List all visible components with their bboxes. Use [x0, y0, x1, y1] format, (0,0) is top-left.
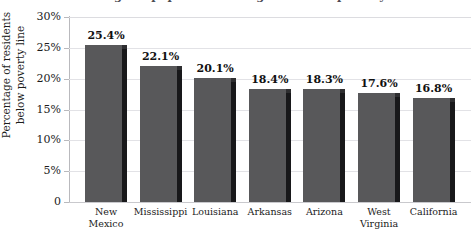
- bar: [358, 93, 395, 202]
- bar-front-face: [303, 89, 340, 202]
- bar-chart: Percentage of population living below th…: [0, 0, 471, 231]
- bar-side-face: [286, 93, 291, 202]
- bar-front-face: [358, 93, 395, 202]
- bar: [413, 98, 450, 202]
- bar-top-face: [122, 45, 127, 49]
- x-axis-category-label: Arkansas: [240, 206, 300, 218]
- bar-top-face: [177, 66, 182, 70]
- bar-top-face: [286, 89, 291, 93]
- x-axis-category-label: West Virginia: [349, 206, 409, 229]
- bar-top-face: [231, 78, 236, 82]
- bar-front-face: [413, 98, 450, 202]
- bar-value-label: 20.1%: [186, 62, 244, 75]
- bar-value-label: 25.4%: [77, 29, 135, 42]
- bar-value-label: 17.6%: [350, 77, 408, 90]
- bar-side-face: [177, 70, 182, 202]
- bar: [249, 89, 286, 202]
- y-axis-tick-label: 10%: [19, 133, 61, 146]
- y-axis-tick-label: 30%: [19, 10, 61, 23]
- y-axis-tick-label: 15%: [19, 103, 61, 116]
- bar-front-face: [85, 45, 122, 202]
- x-axis-category-label: New Mexico: [76, 206, 136, 229]
- x-axis-category-label: Mississippi: [131, 206, 191, 218]
- bar-side-face: [122, 49, 127, 202]
- bar-value-label: 22.1%: [132, 50, 190, 63]
- gridline: [69, 17, 471, 18]
- bar-value-label: 18.3%: [295, 73, 353, 86]
- bar-value-label: 18.4%: [241, 73, 299, 86]
- x-axis-line: [69, 202, 471, 203]
- bar-front-face: [140, 66, 177, 202]
- y-axis-tick-label: 20%: [19, 72, 61, 85]
- bar-side-face: [395, 97, 400, 202]
- bar: [303, 89, 340, 202]
- x-axis-category-label: Louisiana: [185, 206, 245, 218]
- bar-side-face: [340, 93, 345, 202]
- bar-front-face: [194, 78, 231, 202]
- bar-side-face: [450, 102, 455, 202]
- chart-title: Percentage of population living below th…: [0, 0, 471, 3]
- plot-area: [69, 17, 471, 202]
- y-axis-tick: [64, 202, 69, 203]
- bar-side-face: [231, 82, 236, 202]
- y-axis-tick-label: 25%: [19, 41, 61, 54]
- bar: [194, 78, 231, 202]
- y-axis-tick-label: 5%: [19, 164, 61, 177]
- bar-top-face: [450, 98, 455, 102]
- bar-value-label: 16.8%: [405, 82, 463, 95]
- x-axis-category-label: California: [404, 206, 464, 218]
- gridline: [69, 48, 471, 49]
- bar: [85, 45, 122, 202]
- bar-top-face: [340, 89, 345, 93]
- bar: [140, 66, 177, 202]
- bar-front-face: [249, 89, 286, 202]
- y-axis-tick-label: 0: [19, 195, 61, 208]
- x-axis-category-label: Arizona: [294, 206, 354, 218]
- bar-top-face: [395, 93, 400, 97]
